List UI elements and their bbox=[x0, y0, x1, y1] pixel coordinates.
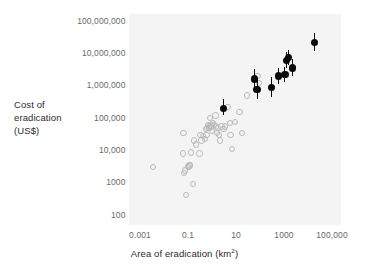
data-point-open bbox=[180, 130, 186, 136]
y-tick-label: 100,000 bbox=[94, 113, 125, 123]
data-point-open bbox=[196, 150, 202, 156]
y-axis-title-line: (US$) bbox=[14, 124, 84, 137]
y-axis-title-line: eradication bbox=[14, 111, 84, 124]
x-tick-label: 100,000 bbox=[302, 230, 362, 240]
y-tick-label: 10,000 bbox=[99, 145, 126, 155]
data-point-open bbox=[244, 92, 250, 98]
data-point-filled bbox=[289, 64, 296, 71]
data-point-open bbox=[188, 149, 194, 155]
data-point-open bbox=[227, 132, 233, 138]
chart-container: 100100010,000100,0001,000,00010,000,0001… bbox=[0, 0, 369, 273]
data-point-open bbox=[212, 112, 218, 118]
y-tick-label: 1000 bbox=[106, 177, 125, 187]
y-tick-label: 1,000,000 bbox=[87, 80, 126, 90]
data-point-filled bbox=[253, 86, 260, 93]
data-point-filled bbox=[268, 84, 275, 91]
data-point-filled bbox=[311, 39, 318, 46]
y-axis-title: Cost oferadication(US$) bbox=[14, 98, 84, 137]
data-point-open bbox=[180, 150, 186, 156]
x-axis-title: Area of eradication (km2) bbox=[0, 247, 369, 259]
y-tick-label: 10,000,000 bbox=[82, 48, 126, 58]
y-tick-label: 100 bbox=[111, 210, 125, 220]
y-axis-title-line: Cost of bbox=[14, 98, 84, 111]
data-point-filled bbox=[220, 105, 227, 112]
data-point-filled bbox=[281, 71, 288, 78]
y-tick-label: 100,000,000 bbox=[77, 16, 125, 26]
